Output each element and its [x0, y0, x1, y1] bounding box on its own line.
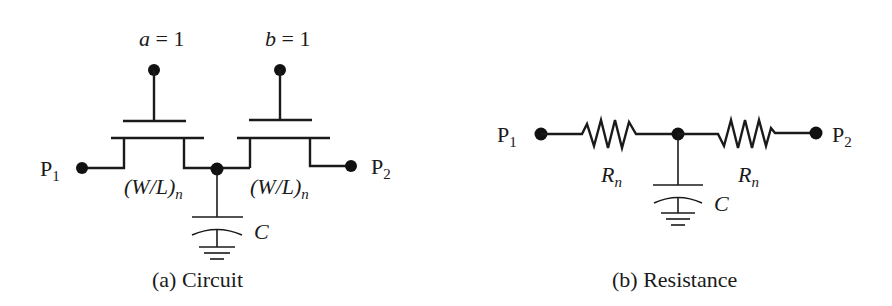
input-a-label: a = 1	[139, 26, 184, 51]
transistor-a-size-label: (W/L)n	[124, 174, 183, 202]
port-p2-label: P2	[371, 154, 391, 182]
resistance-diagram: P1 P2 Rn Rn C (b) Resistance	[497, 120, 852, 292]
port-p2-terminal	[345, 160, 357, 172]
resistor-1	[541, 120, 678, 148]
port-p1-terminal	[76, 162, 88, 174]
transistor-b	[237, 70, 351, 168]
resistor-1-label: Rn	[600, 162, 622, 190]
capacitor-a	[192, 169, 243, 259]
resistor-2-label: Rn	[737, 162, 759, 190]
input-b-label: b = 1	[265, 26, 310, 51]
port-p2-label-b: P2	[832, 122, 852, 150]
caption-a: (a) Circuit	[152, 267, 243, 292]
capacitor-b	[653, 134, 703, 225]
capacitor-b-label: C	[714, 191, 729, 216]
figure-canvas: a = 1 b = 1 P1 P2 (W/L)n (W/L	[0, 0, 892, 306]
transistor-a	[84, 70, 250, 168]
caption-b: (b) Resistance	[612, 267, 737, 292]
circuit-diagram: a = 1 b = 1 P1 P2 (W/L)n (W/L	[40, 26, 391, 292]
port-p2-terminal-b	[810, 127, 823, 140]
transistor-b-size-label: (W/L)n	[250, 174, 309, 202]
capacitor-a-label: C	[254, 219, 269, 244]
port-p1-label: P1	[40, 156, 60, 184]
resistor-2	[678, 120, 816, 148]
port-p1-label-b: P1	[497, 122, 517, 150]
